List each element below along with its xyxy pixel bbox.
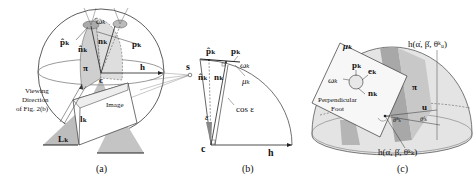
label-n: nₖ xyxy=(98,36,108,46)
label-mu-b: μₖ xyxy=(241,76,251,86)
label-s-visible: s xyxy=(186,61,190,72)
figure-canvas: p̂ₖ n̂ₖ ωₖ nₖ pₖ π c h c s Viewing Direc… xyxy=(0,0,473,185)
perpendicular-foot-point xyxy=(384,115,387,118)
label-pi-c: π xyxy=(412,82,417,92)
label-h-b: h xyxy=(268,147,274,158)
label-L: Lₖ xyxy=(58,134,69,144)
label-p-hat: p̂ₖ xyxy=(60,37,70,47)
label-p-hat-b: p̂ₖ xyxy=(206,46,216,56)
label-p: pₖ xyxy=(132,39,142,49)
caption-a: (a) xyxy=(96,163,107,175)
label-mu-c: μₖ xyxy=(342,41,353,51)
label-p-b: pₖ xyxy=(231,46,241,56)
label-eps: ε xyxy=(205,112,209,122)
caption-c: (c) xyxy=(397,163,408,175)
label-h-bottom: h(α̇, β̇, θᵏₖ) xyxy=(378,147,417,157)
panel-b: p̂ₖ pₖ ωₖ n̂ₖ nₖ μₖ cos ε ε c h (b) xyxy=(198,46,292,175)
label-theta-k: θᵏₖ xyxy=(393,116,401,124)
light-source-s xyxy=(188,73,192,77)
label-perp-1: Perpendicular xyxy=(318,96,358,104)
label-n-c: nₖ xyxy=(368,88,378,98)
label-e-c: eₖ xyxy=(368,66,377,76)
label-pi: π xyxy=(83,63,88,73)
label-theta-l: θˡₖ xyxy=(420,115,427,123)
label-n-hat-b: n̂ₖ xyxy=(198,72,208,82)
label-h-top: h(α̇, β̇, θᵏᵤ) xyxy=(408,39,447,49)
label-c: c xyxy=(99,75,103,85)
label-h: h xyxy=(140,62,145,72)
label-omega: ωₖ xyxy=(96,16,106,26)
label-omega-c: ωₖ xyxy=(328,75,338,85)
label-viewing-2: Direction xyxy=(22,96,49,104)
omega-circle xyxy=(349,75,363,89)
label-image: Image xyxy=(106,101,124,109)
label-omega-b: ωₖ xyxy=(240,60,250,70)
label-l: lₖ xyxy=(80,114,88,124)
caption-b: (b) xyxy=(242,163,254,175)
label-u: u xyxy=(422,102,427,112)
label-n-b: nₖ xyxy=(214,72,224,82)
label-p-c: pₖ xyxy=(352,60,362,70)
label-n-hat: n̂ₖ xyxy=(78,44,88,54)
panel-c: μₖ pₖ ωₖ eₖ nₖ Perpendicular Foot h(α̇, … xyxy=(312,39,472,175)
label-viewing-1: Viewing xyxy=(25,87,49,95)
panel-a: p̂ₖ n̂ₖ ωₖ nₖ pₖ π c h c s Viewing Direc… xyxy=(16,8,192,175)
label-cos-eps: cos ε xyxy=(236,104,254,114)
label-c-b: c xyxy=(201,143,206,154)
label-viewing-3: of Fig. 2(b) xyxy=(16,105,49,113)
label-perp-2: Foot xyxy=(331,105,344,113)
